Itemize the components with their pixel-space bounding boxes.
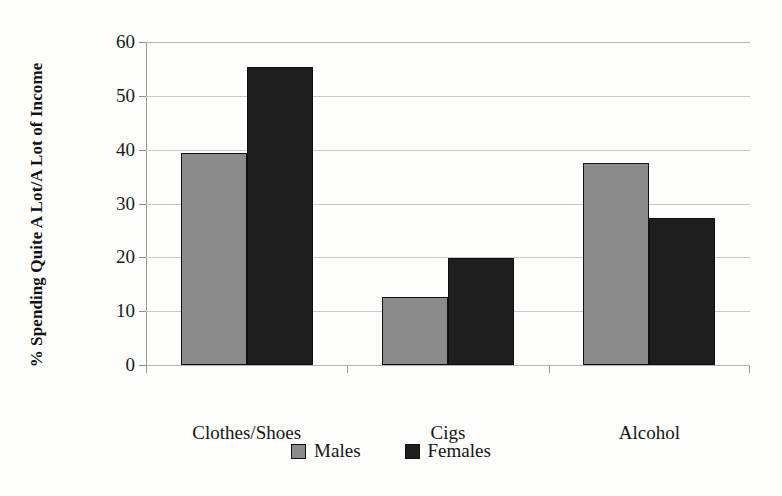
y-tick-mark — [139, 257, 146, 258]
category-separator — [549, 365, 550, 373]
gridline — [146, 42, 750, 43]
bar-males-1 — [382, 297, 448, 365]
y-tick-label: 20 — [116, 246, 135, 268]
bar-females-0 — [247, 67, 313, 365]
category-separator — [749, 365, 750, 373]
plot-area: 0102030405060 Clothes/ShoesCigsAlcohol — [146, 42, 750, 365]
gridline — [146, 96, 750, 97]
y-tick-mark — [139, 365, 146, 366]
y-tick-label: 30 — [116, 193, 135, 215]
y-tick-label: 50 — [116, 85, 135, 107]
bar-males-2 — [583, 163, 649, 365]
category-separator — [146, 365, 147, 373]
bar-males-0 — [181, 153, 247, 365]
y-tick-label: 60 — [116, 31, 135, 53]
y-tick-mark — [139, 311, 146, 312]
legend-item-males: Males — [291, 440, 360, 462]
y-tick-mark — [139, 204, 146, 205]
y-axis-title: % Spending Quite A Lot/A Lot of Income — [27, 25, 47, 405]
gridline — [146, 365, 750, 366]
gridline — [146, 150, 750, 151]
y-tick-mark — [139, 42, 146, 43]
legend-item-females: Females — [405, 440, 491, 462]
y-tick-label: 10 — [116, 300, 135, 322]
chart-legend: MalesFemales — [0, 440, 782, 462]
chart-figure: % Spending Quite A Lot/A Lot of Income 0… — [0, 0, 782, 496]
legend-label: Males — [314, 440, 360, 462]
bar-females-1 — [448, 258, 514, 365]
females-swatch — [405, 444, 420, 459]
y-tick-label: 0 — [126, 354, 136, 376]
bar-females-2 — [649, 218, 715, 365]
category-separator — [347, 365, 348, 373]
y-tick-mark — [139, 96, 146, 97]
y-tick-label: 40 — [116, 139, 135, 161]
y-tick-mark — [139, 150, 146, 151]
males-swatch — [291, 444, 306, 459]
legend-label: Females — [428, 440, 491, 462]
